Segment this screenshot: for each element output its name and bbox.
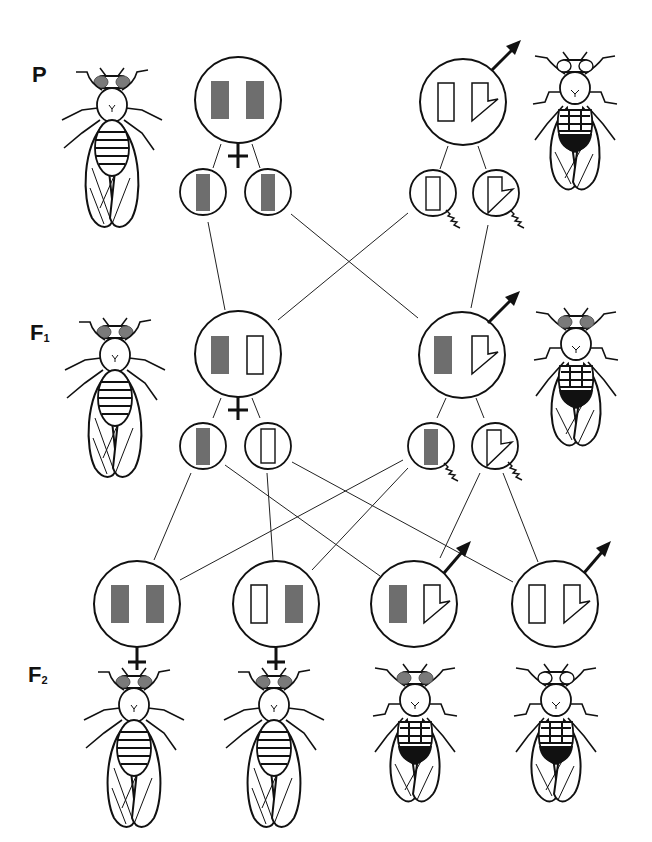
male-symbol-icon	[488, 291, 520, 323]
f2-male-1-genotype	[371, 541, 471, 647]
p-male-fly-white-eyes	[533, 52, 617, 190]
f1-male-gametes	[408, 423, 522, 481]
f2-male-2-genotype	[512, 541, 611, 647]
f1-male-genotype	[419, 291, 520, 398]
female-symbol-icon	[228, 397, 248, 420]
male-symbol-icon	[584, 541, 611, 573]
p-female-genotype	[195, 57, 281, 168]
female-symbol-icon	[128, 647, 146, 670]
f2-female-1-fly	[84, 668, 184, 827]
f2-female-2-fly	[224, 668, 324, 827]
p-male-genotype	[420, 40, 521, 145]
f2-female-2-genotype	[233, 561, 319, 670]
p-female-gametes	[180, 169, 291, 215]
genetics-cross-diagram	[0, 0, 652, 842]
female-symbol-icon	[228, 143, 248, 168]
f1-male-fly-red-eyes	[534, 308, 618, 446]
f1-female-genotype	[195, 311, 281, 420]
f2-male-2-fly-white-eyes	[514, 664, 598, 802]
p-female-fly	[62, 68, 162, 227]
male-symbol-icon	[492, 40, 521, 70]
p-male-gametes	[410, 170, 524, 228]
f2-female-1-genotype	[94, 561, 180, 670]
female-symbol-icon	[267, 647, 285, 670]
f2-male-1-fly-red-eyes	[373, 664, 457, 802]
f1-female-gametes	[180, 423, 291, 469]
f1-female-fly	[65, 318, 165, 477]
